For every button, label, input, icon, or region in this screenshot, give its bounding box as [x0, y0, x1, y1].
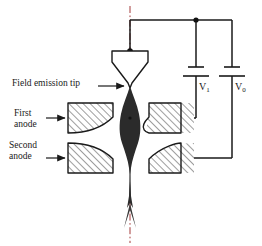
- label-v1-subscript: 1: [206, 86, 210, 94]
- label-v0-subscript: 0: [242, 86, 246, 94]
- label-second-anode-line2: anode: [9, 151, 32, 161]
- battery-v1: [183, 67, 209, 76]
- figure-container: Field emission tip First anode Second an…: [0, 0, 262, 246]
- circuit-wiring: [130, 20, 232, 158]
- field-emission-tip: [112, 51, 148, 88]
- label-first-anode-line1: First: [14, 108, 31, 118]
- second-anode-left-electrode: [66, 141, 116, 177]
- second-anode-right-electrode: [147, 141, 197, 177]
- label-second-anode: Second anode: [9, 140, 37, 162]
- electron-beam-envelope: [120, 86, 141, 228]
- label-first-anode-line2: anode: [14, 119, 37, 129]
- label-first-anode: First anode: [14, 108, 37, 130]
- label-field-emission-tip: Field emission tip: [12, 78, 80, 89]
- battery-v0: [219, 67, 245, 76]
- label-battery-v1: V1: [199, 81, 210, 92]
- junction-dot-top-rail: [193, 17, 198, 22]
- first-anode-right-electrode: [143, 101, 197, 137]
- label-second-anode-line1: Second: [9, 140, 37, 150]
- first-anode-left-electrode: [66, 101, 116, 137]
- field-emission-gun-diagram: [0, 0, 262, 246]
- label-battery-v0: V0: [235, 81, 246, 92]
